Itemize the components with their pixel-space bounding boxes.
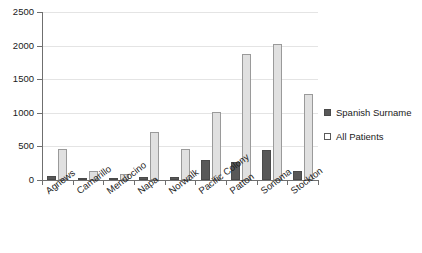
x-axis-tick	[165, 181, 166, 185]
y-axis-tick	[37, 79, 42, 80]
y-axis-tick-label: 1000	[0, 108, 34, 118]
y-axis-tick-label: 1500	[0, 74, 34, 84]
y-axis-tick-label: 2000	[0, 41, 34, 51]
x-axis-tick	[226, 181, 227, 185]
x-axis-tick	[134, 181, 135, 185]
bar	[262, 150, 271, 180]
plot-area	[42, 12, 318, 180]
x-axis-tick	[287, 181, 288, 185]
y-axis-tick	[37, 46, 42, 47]
bar	[273, 44, 282, 180]
bar	[150, 132, 159, 180]
bar-chart: 05001000150020002500 AgnewsCamarilloMend…	[0, 0, 422, 253]
legend-item: Spanish Surname	[324, 108, 412, 118]
x-axis-tick	[103, 181, 104, 185]
y-axis-tick	[37, 146, 42, 147]
legend-swatch-icon	[324, 133, 331, 140]
y-axis-tick	[37, 113, 42, 114]
y-axis-line	[42, 12, 43, 180]
x-axis-tick	[257, 181, 258, 185]
y-axis-tick-label: 0	[0, 175, 34, 185]
x-axis-tick	[42, 181, 43, 185]
legend-label: Spanish Surname	[336, 108, 412, 118]
bar	[304, 94, 313, 180]
gridline	[42, 12, 318, 13]
legend-label: All Patients	[336, 132, 384, 142]
legend-item: All Patients	[324, 132, 412, 142]
x-axis-tick	[318, 181, 319, 185]
y-axis-tick-label: 2500	[0, 7, 34, 17]
x-axis-tick	[195, 181, 196, 185]
y-axis-tick	[37, 12, 42, 13]
x-axis-tick	[73, 181, 74, 185]
legend-swatch-icon	[324, 109, 331, 116]
y-axis-tick-label: 500	[0, 141, 34, 151]
chart-legend: Spanish SurnameAll Patients	[324, 108, 412, 155]
